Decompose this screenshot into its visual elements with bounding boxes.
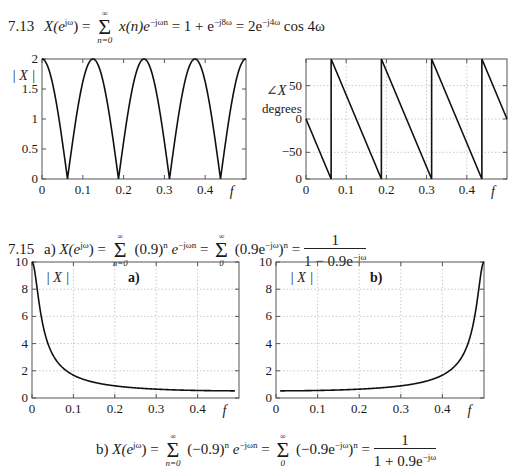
x-tick-label: 0 [273, 401, 280, 416]
x-tick-label: 0 [39, 182, 46, 197]
y-tick-label: 10 [15, 254, 28, 269]
y-tick-label: −50 [282, 144, 302, 159]
x-axis-label: f [467, 403, 473, 418]
x-tick-label: 0.4 [189, 401, 206, 416]
x-tick-label: 0.3 [156, 182, 172, 197]
y-axis-label: | X | [46, 270, 69, 285]
y-tick-label: 0 [32, 171, 39, 186]
y-tick-label: 0 [266, 390, 273, 405]
y-tick-label: 0 [296, 171, 303, 186]
chart-phase-7-13: 00.10.20.30.4f0−50050∠Xdegrees [262, 59, 507, 199]
x-tick-label: 0.3 [393, 401, 409, 416]
x-axis-label: f [491, 184, 497, 199]
y-tick-label: 10 [259, 254, 272, 269]
y-tick-label: 4 [266, 336, 273, 351]
y-tick-label: 50 [289, 78, 302, 93]
x-tick-label: 0.1 [65, 401, 81, 416]
y-tick-label: 6 [22, 308, 29, 323]
y-tick-label: 8 [22, 281, 29, 296]
x-axis-label: f [230, 184, 236, 199]
plot-frame [42, 59, 246, 179]
y-tick-label: 2 [22, 363, 29, 378]
x-tick-label: 0.4 [459, 182, 476, 197]
panel-title: a) [128, 270, 140, 286]
chart-mag-7-15b: 00.10.20.30.4f0246810 | X | b) [259, 254, 484, 418]
data-curve [42, 59, 246, 179]
y-tick-label: 0 [22, 390, 29, 405]
chart-mag-7-13: 00.10.20.30.4f00.511.52 | X | [12, 51, 246, 199]
y-tick-label: 0.5 [22, 141, 38, 156]
x-tick-label: 0.1 [338, 182, 354, 197]
x-tick-label: 0.3 [418, 182, 434, 197]
y-tick-label: 8 [266, 281, 273, 296]
x-tick-label: 0.2 [378, 182, 394, 197]
x-tick-label: 0.3 [148, 401, 164, 416]
x-tick-label: 0.2 [351, 401, 367, 416]
x-tick-label: 0.2 [107, 401, 123, 416]
x-tick-label: 0.1 [309, 401, 325, 416]
y-tick-label: 2 [32, 51, 39, 66]
chart-canvas: 00.10.20.30.4f00.511.52 | X | 00.10.20.3… [0, 0, 518, 470]
y-tick-label: 2 [266, 363, 273, 378]
y-axis-label: | X | [290, 270, 313, 285]
x-tick-label: 0.4 [434, 401, 451, 416]
x-tick-label: 0 [29, 401, 36, 416]
chart-mag-7-15a: 00.10.20.30.4f0246810 | X | a) [15, 254, 239, 418]
y-tick-label: 1 [32, 111, 39, 126]
x-tick-label: 0 [303, 182, 310, 197]
y-tick-label: 6 [266, 308, 273, 323]
y-tick-label: 1.5 [22, 81, 38, 96]
panel-title: b) [370, 270, 383, 286]
x-tick-label: 0.4 [197, 182, 214, 197]
y-tick-label: 4 [22, 336, 29, 351]
x-tick-label: 0.2 [115, 182, 131, 197]
x-tick-label: 0.1 [75, 182, 91, 197]
y-axis-label: | X | [12, 68, 35, 83]
x-axis-label: f [223, 403, 229, 418]
data-curve [306, 59, 507, 179]
